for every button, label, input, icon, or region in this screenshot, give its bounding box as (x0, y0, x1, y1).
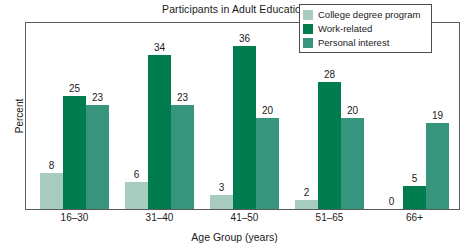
bar-value-label: 23 (177, 92, 188, 103)
chart-legend: College degree programWork-relatedPerson… (299, 4, 432, 53)
bar-rect[interactable] (403, 186, 426, 209)
bar-value-label: 0 (389, 196, 395, 207)
bar-value-label: 20 (347, 105, 358, 116)
y-axis: Percent (12, 22, 26, 210)
bar-value-label: 20 (262, 105, 273, 116)
x-tick-label: 16–30 (61, 212, 89, 223)
bar-rect[interactable] (210, 195, 233, 209)
bar-rect[interactable] (318, 82, 341, 209)
legend-label: Work-related (318, 24, 372, 34)
x-tick-label: 51–65 (316, 212, 344, 223)
bar-value-label: 8 (49, 160, 55, 171)
bar-rect[interactable] (125, 182, 148, 209)
bar-rect[interactable] (63, 96, 86, 209)
x-axis-label: Age Group (years) (0, 231, 469, 243)
legend-label: Personal interest (318, 38, 389, 48)
bar-rect[interactable] (295, 200, 318, 209)
bar-value-label: 3 (219, 182, 225, 193)
legend-item[interactable]: Work-related (303, 22, 427, 35)
bar-value-label: 2 (304, 187, 310, 198)
bar-rect[interactable] (233, 46, 256, 209)
bar-value-label: 19 (432, 110, 443, 121)
bar-value-label: 23 (92, 92, 103, 103)
chart-container: Participants in Adult Education Percent … (0, 0, 469, 251)
legend-swatch-icon (303, 38, 313, 48)
bar-value-label: 28 (324, 69, 335, 80)
bar-rect[interactable] (341, 118, 364, 209)
bar-rect[interactable] (426, 123, 449, 209)
bar-group: 33620 (210, 23, 279, 209)
x-tick-label: 66+ (406, 212, 423, 223)
bar-group: 63423 (125, 23, 194, 209)
bar-value-label: 6 (134, 169, 140, 180)
bar-rect[interactable] (148, 55, 171, 209)
bar-rect[interactable] (86, 105, 109, 209)
legend-item[interactable]: College degree program (303, 8, 427, 21)
bar-rect[interactable] (40, 173, 63, 209)
bar-value-label: 34 (154, 42, 165, 53)
bar-value-label: 25 (69, 83, 80, 94)
legend-item[interactable]: Personal interest (303, 36, 427, 49)
bar-rect[interactable] (256, 118, 279, 209)
bar-rect[interactable] (171, 105, 194, 209)
x-tick-label: 41–50 (231, 212, 259, 223)
y-axis-label: Percent (14, 61, 25, 171)
x-axis-tick-labels: 16–3031–4041–5051–6566+ (25, 212, 460, 228)
legend-swatch-icon (303, 24, 313, 34)
legend-label: College degree program (318, 10, 420, 20)
bar-value-label: 36 (239, 33, 250, 44)
legend-swatch-icon (303, 10, 313, 20)
bar-group: 82523 (40, 23, 109, 209)
x-tick-label: 31–40 (146, 212, 174, 223)
bar-value-label: 5 (412, 173, 418, 184)
